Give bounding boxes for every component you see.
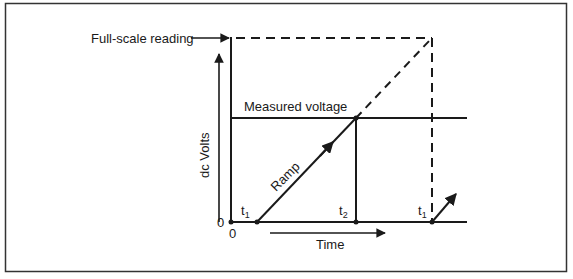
measured-voltage-label: Measured voltage xyxy=(244,99,347,114)
t1-label: t1 xyxy=(241,203,250,220)
figure-frame xyxy=(6,4,567,272)
t1-repeat-label: t1 xyxy=(418,203,427,220)
ramp-direction-arrow xyxy=(320,142,333,156)
t2-label: t2 xyxy=(339,203,348,220)
intersection-dot xyxy=(354,116,359,121)
ramp-dvm-diagram: Full-scale reading Measured voltage dc V… xyxy=(0,0,573,279)
x-origin-label: 0 xyxy=(229,226,236,241)
x-axis-label: Time xyxy=(316,237,344,252)
ramp-dashed-extension xyxy=(356,40,430,118)
y-axis-label: dc Volts xyxy=(197,132,212,178)
origin-dot xyxy=(229,220,234,225)
t2-dot xyxy=(354,220,359,225)
y-origin-label: 0 xyxy=(217,215,224,230)
t1-dot xyxy=(255,220,260,225)
full-scale-label: Full-scale reading xyxy=(91,31,194,46)
next-ramp-arrow xyxy=(432,194,456,222)
ramp-label: Ramp xyxy=(268,159,303,194)
